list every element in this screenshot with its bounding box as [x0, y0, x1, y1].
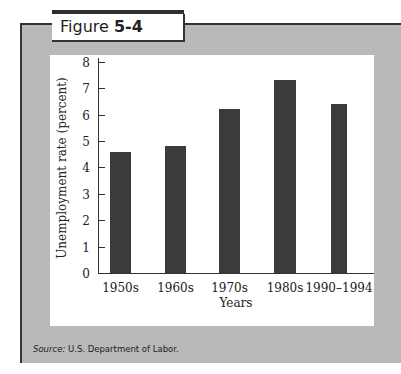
- y-tick: [98, 247, 105, 248]
- x-tick-label: 1950s: [102, 281, 139, 295]
- y-tick: [98, 194, 105, 195]
- bar: [219, 109, 240, 273]
- x-tick-label: 1980s: [267, 281, 304, 295]
- y-tick: [98, 88, 105, 89]
- bar: [274, 80, 296, 273]
- y-tick-label: 3: [78, 189, 90, 201]
- figure-number: 5-4: [114, 17, 143, 36]
- x-axis-title: Years: [219, 296, 252, 310]
- x-tick-label: 1970s: [211, 281, 248, 295]
- bar: [165, 146, 186, 273]
- y-tick: [98, 141, 105, 142]
- y-tick-label: 7: [78, 83, 90, 95]
- y-tick-label: 4: [78, 162, 90, 174]
- bar: [331, 104, 347, 273]
- x-tick-label: 1990–1994: [305, 281, 372, 295]
- y-axis: [98, 58, 99, 274]
- y-tick: [98, 115, 105, 116]
- source-text: U.S. Department of Labor.: [65, 344, 178, 354]
- x-tick-label: 1960s: [157, 281, 194, 295]
- y-tick: [98, 62, 105, 63]
- y-tick: [98, 220, 105, 221]
- figure-title: Figure 5-4: [60, 17, 143, 36]
- y-tick-label: 6: [78, 110, 90, 122]
- y-axis-title: Unemployment rate (percent): [55, 77, 69, 259]
- y-tick: [98, 167, 105, 168]
- source-note: Source: U.S. Department of Labor.: [33, 344, 179, 354]
- y-tick-label: 5: [78, 136, 90, 148]
- bar: [110, 152, 131, 273]
- y-tick-label: 0: [78, 268, 90, 280]
- y-tick-label: 1: [78, 242, 90, 254]
- source-label: Source:: [33, 344, 65, 354]
- figure-title-box: Figure 5-4: [52, 14, 185, 42]
- x-axis: [98, 273, 374, 274]
- figure-title-prefix: Figure: [60, 17, 114, 36]
- y-tick-label: 8: [78, 57, 90, 69]
- y-tick-label: 2: [78, 215, 90, 227]
